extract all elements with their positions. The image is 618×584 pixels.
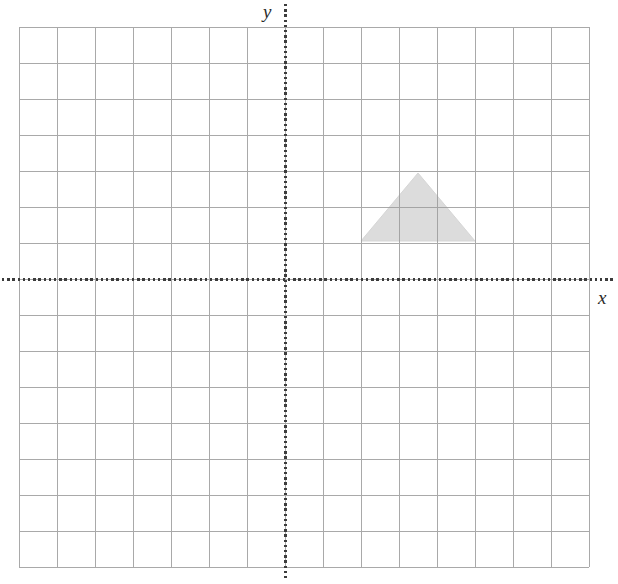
coordinate-plane-figure: y x [0,0,618,584]
grid-layer [19,27,590,568]
x-axis-label: x [598,288,606,307]
y-axis-label: y [263,2,271,21]
plot-svg [0,0,618,584]
axis-layer [2,4,614,580]
